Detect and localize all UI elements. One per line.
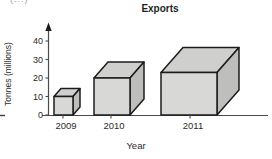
y-tick-label: 40	[33, 36, 43, 46]
cube-bar-2009	[54, 89, 80, 116]
x-axis-ticks: 200920102011	[55, 115, 203, 131]
y-axis-label: Tonnes (millions)	[3, 42, 13, 106]
cube-front-face	[94, 78, 130, 115]
y-tick-label: 0	[38, 110, 43, 120]
cube-front-face	[161, 72, 217, 115]
cube-front-face	[54, 97, 73, 116]
y-axis-ticks: 010203040	[33, 36, 49, 120]
chart-canvas: (...) Exports 010203040 200920102011 Ton…	[0, 0, 272, 159]
cube-bar-2010	[94, 62, 144, 115]
x-tick-label: 2009	[55, 120, 76, 131]
y-axis	[45, 23, 51, 116]
x-tick-label: 2011	[183, 120, 203, 131]
y-tick-label: 30	[33, 55, 43, 65]
y-tick-label: 10	[33, 92, 43, 102]
x-tick-label: 2010	[103, 120, 124, 131]
exports-bar-chart: 010203040 200920102011 Tonnes (millions)…	[0, 0, 272, 159]
cube-bars	[54, 47, 239, 115]
y-tick-label: 20	[33, 73, 43, 83]
x-axis-label: Year	[126, 140, 145, 151]
y-axis-arrow-icon	[45, 23, 51, 32]
cube-bar-2011	[161, 47, 239, 115]
